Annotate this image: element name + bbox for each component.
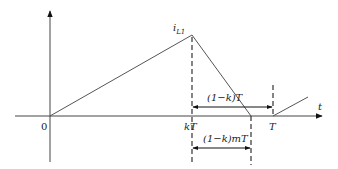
origin-label: 0	[41, 121, 47, 132]
timing-diagram: 0 t iL1 kT T (1−k)T (1−k)mT	[0, 0, 338, 169]
lower-dimension-label: (1−k)mT	[203, 133, 249, 144]
x-axis-label: t	[318, 101, 323, 112]
peak-label: iL1	[173, 22, 185, 36]
kT-label: kT	[184, 121, 198, 132]
next-period-ramp	[273, 97, 308, 116]
current-waveform	[50, 35, 308, 116]
peak-label-sub: L1	[175, 28, 185, 36]
rising-ramp	[50, 35, 192, 116]
axes	[15, 11, 322, 162]
upper-dimension-label: (1−k)T	[207, 92, 244, 103]
T-label: T	[269, 121, 277, 132]
falling-ramp	[192, 35, 251, 116]
